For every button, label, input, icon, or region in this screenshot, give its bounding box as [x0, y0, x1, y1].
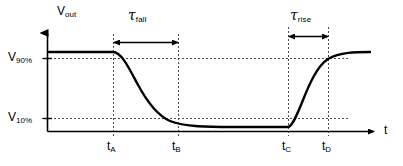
- x-tick-label-ta: tA: [107, 140, 116, 154]
- x-tick-label-tb: tB: [172, 140, 181, 154]
- x-tick-tb-sub: B: [175, 145, 180, 154]
- x-tick-tc-sub: C: [285, 145, 291, 154]
- x-tick-td-sub: D: [325, 145, 331, 154]
- y-tick-v10-sub: 10%: [16, 116, 32, 125]
- tau-fall-sub: fall: [136, 15, 147, 24]
- x-tick-label-tc: tC: [282, 140, 291, 154]
- y-tick-label-v10: V10%: [8, 111, 32, 125]
- y-tick-v10-main: V: [8, 110, 16, 124]
- y-axis-title-main: V: [57, 4, 65, 18]
- x-tick-label-td: tD: [322, 140, 331, 154]
- tau-rise-label: τrise: [290, 8, 311, 24]
- y-tick-v90-sub: 90%: [16, 56, 32, 65]
- y-axis-title-sub: out: [65, 10, 76, 19]
- tau-rise-symbol: τ: [290, 7, 298, 23]
- waveform-curve: [49, 52, 370, 127]
- x-axis-title: t: [384, 124, 387, 136]
- plot-canvas: [0, 0, 403, 166]
- tau-rise-sub: rise: [298, 15, 312, 24]
- tau-fall-symbol: τ: [128, 7, 136, 23]
- tau-fall-label: τfall: [128, 8, 147, 24]
- x-tick-ta-sub: A: [110, 145, 115, 154]
- y-tick-v90-main: V: [8, 50, 16, 64]
- y-tick-label-v90: V90%: [8, 51, 32, 65]
- y-axis-title: Vout: [57, 5, 76, 19]
- waveform-figure: Vout t V90% V10% tA tB tC tD τfall τrise: [0, 0, 403, 166]
